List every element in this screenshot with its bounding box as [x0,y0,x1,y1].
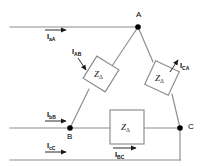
node-label-c: C [188,123,194,131]
branch-a-to-zca [138,27,153,62]
impedance-subscript-ab: Δ [99,74,103,80]
current-label-ab: IAB [72,48,81,56]
current-label-bb: IbB [47,111,56,119]
node-label-a: A [136,11,141,19]
figure-canvas: A B C ZΔ ZΔ ZΔ IaA IbB IcC IAB ICA IBC [0,0,214,166]
current-label-bc: IBC [115,151,124,159]
current-subscript-bb: bB [49,114,56,120]
current-subscript-ab: AB [74,51,81,57]
impedance-label-ab: ZΔ [94,69,103,79]
current-subscript-ca: CA [182,65,189,71]
current-label-cc: IcC [47,142,56,150]
branch-zca-to-c [172,94,180,128]
impedance-subscript-ca: Δ [160,78,164,84]
circuit-diagram-svg [0,0,214,166]
current-subscript-cc: cC [49,145,55,151]
current-subscript-bc: BC [117,154,124,160]
node-dot-c [177,125,183,131]
node-dot-b [67,125,73,131]
impedance-label-bc: ZΔ [121,122,130,132]
node-label-b: B [67,133,72,141]
current-arrow-ab [78,58,86,70]
current-label-aa: IaA [47,33,56,41]
current-label-ca: ICA [180,62,189,70]
current-subscript-aa: aA [49,36,55,42]
node-dot-a [135,24,141,30]
impedance-subscript-bc: Δ [126,127,130,133]
impedance-label-ca: ZΔ [155,73,164,83]
branch-a-to-zab [112,27,138,66]
branch-zab-to-b [70,89,89,128]
